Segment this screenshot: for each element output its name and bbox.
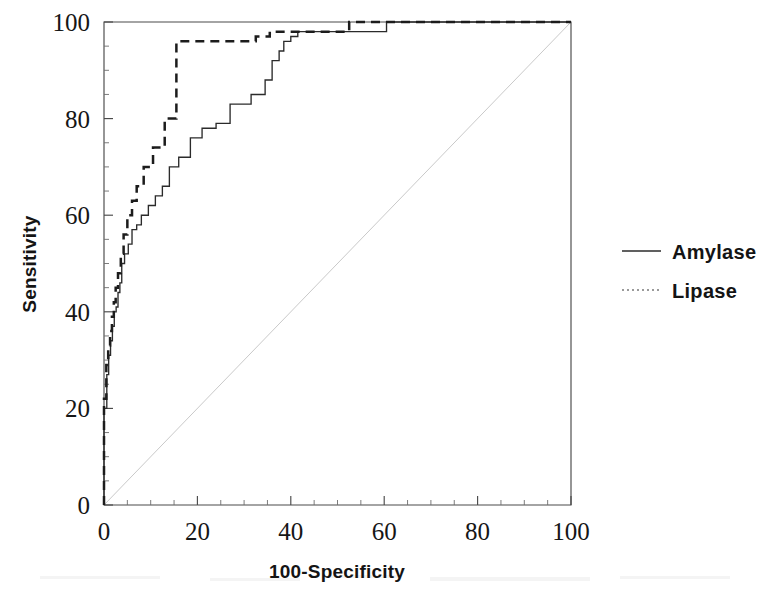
y-axis-minor-ticks: [104, 46, 109, 481]
x-tick-label: 100: [552, 518, 590, 545]
roc-figure: 020406080100 020406080100 100-Specificit…: [0, 0, 779, 596]
x-tick-label: 80: [465, 518, 490, 545]
legend-item-amylase: Amylase: [622, 241, 756, 263]
y-tick-label: 20: [65, 395, 90, 422]
legend-item-lipase: Lipase: [622, 280, 737, 302]
y-axis-title: Sensitivity: [19, 215, 40, 312]
x-axis-minor-ticks: [127, 500, 547, 505]
legend-label-amylase: Amylase: [672, 241, 756, 263]
x-tick-label: 20: [185, 518, 210, 545]
legend-label-lipase: Lipase: [672, 280, 737, 302]
roc-chart-canvas: 020406080100 020406080100 100-Specificit…: [0, 0, 779, 596]
y-tick-label: 60: [65, 202, 90, 229]
x-tick-label: 0: [98, 518, 111, 545]
y-tick-label: 80: [65, 106, 90, 133]
y-tick-label: 100: [53, 9, 91, 36]
chart-legend: Amylase Lipase: [622, 241, 756, 302]
x-tick-label: 60: [372, 518, 397, 545]
y-tick-label: 40: [65, 299, 90, 326]
x-tick-label: 40: [278, 518, 303, 545]
y-tick-label: 0: [78, 492, 91, 519]
x-axis-title: 100-Specificity: [269, 561, 405, 582]
chance-diagonal-line: [104, 22, 571, 505]
x-axis-tick-labels: 020406080100: [98, 518, 590, 545]
y-axis-tick-labels: 020406080100: [53, 9, 91, 519]
